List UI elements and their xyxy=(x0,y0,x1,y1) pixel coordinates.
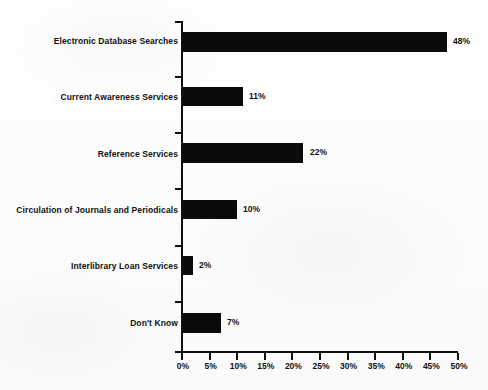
x-axis-tick xyxy=(457,353,459,360)
horizontal-bar-chart: Electronic Database Searches Current Awa… xyxy=(0,0,488,390)
category-label: Interlibrary Loan Services xyxy=(0,262,178,271)
x-axis-tick-label: 0% xyxy=(177,362,189,371)
bar-value-label: 11% xyxy=(249,92,266,101)
x-axis-tick-label: 40% xyxy=(395,362,412,371)
y-axis-tick xyxy=(175,132,182,134)
bar-value-label: 48% xyxy=(453,37,470,46)
y-axis-tick xyxy=(175,76,182,78)
bar-value-label: 2% xyxy=(199,261,211,270)
category-label: Current Awareness Services xyxy=(0,93,178,102)
category-label: Circulation of Journals and Periodicals xyxy=(0,206,178,215)
bar-reference-services xyxy=(182,143,303,163)
x-axis-tick xyxy=(291,353,293,360)
bar-interlibrary-loan-services xyxy=(182,256,193,275)
x-axis-tick xyxy=(236,353,238,360)
x-axis-tick-label: 10% xyxy=(230,362,247,371)
category-label: Don't Know xyxy=(0,319,178,328)
x-axis-tick xyxy=(402,353,404,360)
y-axis-tick xyxy=(175,21,182,23)
y-axis-tick xyxy=(175,188,182,190)
x-axis-tick xyxy=(347,353,349,360)
bar-dont-know xyxy=(182,313,221,333)
x-axis-tick xyxy=(264,353,266,360)
x-axis-tick-label: 45% xyxy=(423,362,440,371)
x-axis-tick xyxy=(319,353,321,360)
x-axis-tick-label: 35% xyxy=(368,362,385,371)
x-axis-tick xyxy=(429,353,431,360)
plot-area: 48% 11% 22% 10% 2% 7% xyxy=(182,21,458,352)
bar-electronic-database-searches xyxy=(182,32,447,52)
x-axis-tick-label: 50% xyxy=(450,362,467,371)
bar-value-label: 10% xyxy=(243,205,260,214)
x-axis-tick-label: 5% xyxy=(204,362,216,371)
x-axis-tick xyxy=(209,353,211,360)
bar-current-awareness-services xyxy=(182,87,243,106)
bar-value-label: 7% xyxy=(227,318,239,327)
x-axis-tick-label: 15% xyxy=(257,362,274,371)
y-axis-tick xyxy=(175,301,182,303)
x-axis-tick-label: 25% xyxy=(312,362,329,371)
x-axis-tick xyxy=(374,353,376,360)
x-axis-tick-label: 30% xyxy=(340,362,357,371)
bar-circulation-of-journals-and-periodicals xyxy=(182,200,237,219)
x-axis-tick xyxy=(181,353,183,360)
y-axis-tick xyxy=(175,245,182,247)
x-axis-tick-label: 20% xyxy=(285,362,302,371)
bar-value-label: 22% xyxy=(310,148,327,157)
category-label: Electronic Database Searches xyxy=(0,37,178,46)
category-label: Reference Services xyxy=(0,150,178,159)
